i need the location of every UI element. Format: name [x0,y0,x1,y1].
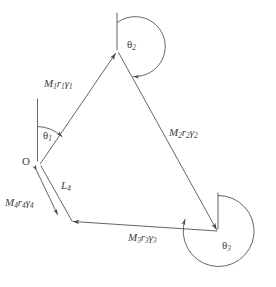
link2-vector [119,53,217,230]
ground-link-sub: 4 [67,185,71,193]
link3-gamma-sub: 3 [153,237,157,245]
link3-label: M3r3γ3 [128,232,157,245]
link2-label: M2r2γ2 [169,127,198,140]
link2-M: M [169,126,178,138]
theta2-label: θ2 [127,39,136,52]
theta3-arc [183,195,254,266]
link4-M: M [5,196,14,208]
theta1-label: θ1 [43,130,52,143]
link3-vector [73,222,217,232]
link3-M: M [128,231,137,243]
link4-label: M4r4γ4 [5,197,34,210]
theta3-sub: 3 [227,245,231,253]
theta3-label: θ3 [222,240,231,253]
theta2-arc [117,17,165,77]
vector-loop-diagram: O M1r1γ1 M2r2γ2 M3r3γ3 M4r4γ4 L4 θ1 θ2 θ… [0,0,276,287]
link2-gamma-sub: 2 [194,132,198,140]
link1-gamma-sub: 1 [69,83,73,91]
theta2-sub: 2 [132,44,136,52]
link4-gamma-sub: 4 [30,202,34,210]
origin-label: O [22,156,30,167]
link1-label: M1r1γ1 [44,78,73,91]
ground-link-label: L4 [61,180,71,193]
link1-M: M [44,77,53,89]
link1-vector [41,54,116,164]
theta1-sub: 1 [48,135,52,143]
